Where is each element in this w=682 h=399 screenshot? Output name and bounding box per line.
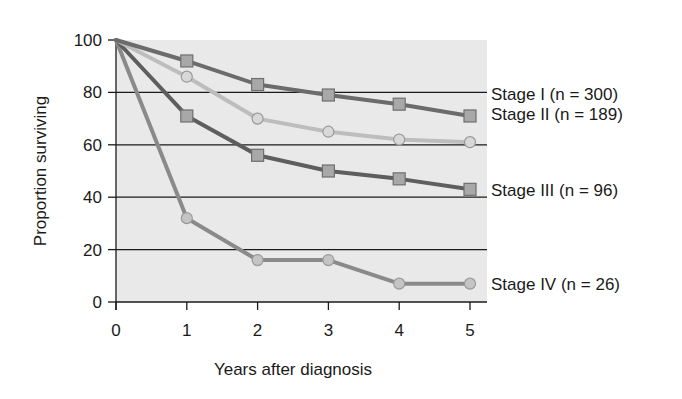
legend-label-stage-4: Stage IV (n = 26): [491, 275, 620, 294]
legend: Stage I (n = 300)Stage II (n = 189)Stage…: [491, 85, 623, 294]
circle-marker: [181, 213, 192, 224]
square-marker: [464, 110, 476, 122]
square-marker: [252, 79, 264, 91]
square-marker: [393, 173, 405, 185]
x-tick-label: 1: [182, 321, 191, 340]
y-tick-label: 100: [74, 31, 102, 50]
x-tick-label: 0: [111, 321, 120, 340]
square-marker: [181, 55, 193, 67]
circle-marker: [465, 278, 476, 289]
plot-background: [116, 40, 487, 302]
y-tick-label: 20: [83, 241, 102, 260]
y-tick-label: 40: [83, 188, 102, 207]
legend-label-stage-1: Stage I (n = 300): [491, 85, 618, 104]
y-tick-label: 60: [83, 136, 102, 155]
survival-chart: 020406080100012345 Stage I (n = 300)Stag…: [0, 0, 682, 399]
y-axis-title: Proportion surviving: [31, 96, 50, 246]
circle-marker: [323, 126, 334, 137]
y-tick-label: 0: [93, 293, 102, 312]
square-marker: [393, 98, 405, 110]
x-axis-title: Years after diagnosis: [214, 360, 372, 379]
legend-label-stage-2: Stage II (n = 189): [491, 105, 623, 124]
square-marker: [322, 165, 334, 177]
circle-marker: [394, 134, 405, 145]
y-tick-label: 80: [83, 83, 102, 102]
legend-label-stage-3: Stage III (n = 96): [491, 181, 618, 200]
square-marker: [322, 89, 334, 101]
square-marker: [181, 110, 193, 122]
x-tick-label: 2: [253, 321, 262, 340]
circle-marker: [394, 278, 405, 289]
square-marker: [464, 183, 476, 195]
x-tick-label: 4: [394, 321, 403, 340]
circle-marker: [465, 137, 476, 148]
circle-marker: [252, 255, 263, 266]
circle-marker: [252, 113, 263, 124]
circle-marker: [323, 255, 334, 266]
circle-marker: [181, 71, 192, 82]
square-marker: [252, 149, 264, 161]
x-tick-label: 5: [465, 321, 474, 340]
x-tick-label: 3: [324, 321, 333, 340]
